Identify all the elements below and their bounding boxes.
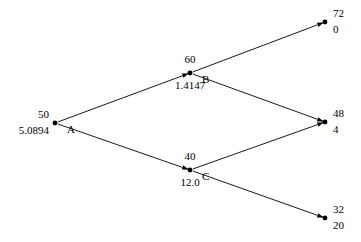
node-f-option-value: 20	[333, 220, 361, 231]
tree-edges-layer	[0, 0, 361, 242]
tree-node-dot-a	[53, 121, 58, 126]
tree-node-dot-f	[323, 216, 328, 221]
node-a-name: A	[67, 124, 87, 135]
node-d-option-value: 0	[333, 24, 361, 35]
node-e-option-value: 4	[333, 124, 361, 135]
node-a-option-value: 5.0894	[3, 125, 49, 136]
tree-node-dot-d	[323, 20, 328, 25]
node-e-stock-price: 48	[333, 108, 361, 119]
node-b-stock-price: 60	[167, 54, 213, 65]
node-c-stock-price: 40	[167, 151, 213, 162]
node-b-name: B	[202, 74, 222, 85]
node-d-stock-price: 72	[333, 8, 361, 19]
tree-edge-c-to-e	[193, 123, 323, 169]
node-a-stock-price: 50	[3, 109, 49, 120]
tree-node-dot-c	[188, 168, 193, 173]
binomial-tree-diagram: 505.0894A601.4147B4012.0C7204843220	[0, 0, 361, 242]
tree-node-dot-e	[323, 120, 328, 125]
node-f-stock-price: 32	[333, 204, 361, 215]
node-c-name: C	[202, 171, 222, 182]
tree-node-dot-b	[188, 71, 193, 76]
